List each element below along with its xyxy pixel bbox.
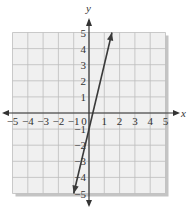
svg-text:−5: −5 bbox=[7, 115, 19, 127]
svg-text:−4: −4 bbox=[22, 115, 34, 127]
svg-text:−3: −3 bbox=[37, 115, 49, 127]
svg-text:2: 2 bbox=[117, 115, 123, 127]
svg-text:4: 4 bbox=[81, 43, 87, 55]
svg-text:−1: −1 bbox=[74, 123, 86, 135]
svg-text:3: 3 bbox=[132, 115, 138, 127]
svg-text:1: 1 bbox=[102, 115, 108, 127]
svg-text:−2: −2 bbox=[53, 115, 65, 127]
y-axis-label: y bbox=[85, 2, 91, 14]
coordinate-plane: −5−4−3−2−101234554321−1−2−3−4−5 x y bbox=[0, 0, 188, 207]
svg-text:4: 4 bbox=[147, 115, 153, 127]
svg-text:2: 2 bbox=[81, 75, 87, 87]
svg-text:5: 5 bbox=[163, 115, 169, 127]
svg-text:1: 1 bbox=[81, 91, 87, 103]
x-axis-label: x bbox=[180, 107, 186, 119]
svg-text:3: 3 bbox=[81, 59, 87, 71]
svg-text:5: 5 bbox=[81, 27, 87, 39]
